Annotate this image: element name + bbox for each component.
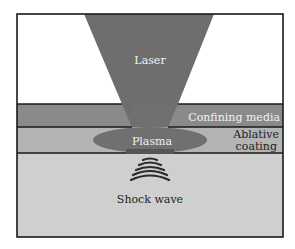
plasma-contact: [126, 149, 174, 154]
laser-beam-in-media: [132, 104, 168, 127]
plasma-label: Plasma: [132, 135, 173, 148]
shock-wave-label: Shock wave: [117, 193, 183, 206]
laser-label: Laser: [134, 54, 166, 67]
laser-shock-peening-diagram: Laser Confining media Ablative coating P…: [0, 0, 295, 249]
confining-media-label: Confining media: [188, 111, 280, 124]
ablative-coating-label-line2: coating: [236, 140, 277, 153]
